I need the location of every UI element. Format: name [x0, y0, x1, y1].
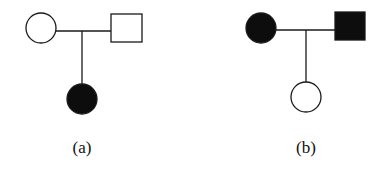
pedigree-label-b: (b) [296, 138, 316, 158]
child-unaffected-female-b [291, 82, 321, 112]
pedigree-a [26, 13, 142, 114]
father-unaffected-male-a [111, 14, 142, 42]
child-affected-female-a [67, 84, 97, 114]
pedigree-b [246, 12, 365, 112]
pedigree-diagrams [0, 0, 384, 174]
mother-affected-female-b [246, 13, 276, 43]
father-affected-male-b [335, 12, 365, 40]
mother-unaffected-female-a [26, 13, 56, 43]
pedigree-label-a: (a) [73, 138, 92, 158]
